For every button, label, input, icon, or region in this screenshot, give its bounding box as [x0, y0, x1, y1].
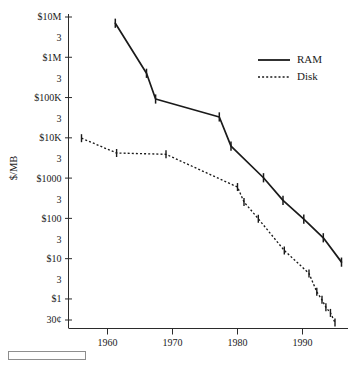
x-tick-group: 1960197019801990: [98, 329, 313, 349]
chart-legend: RAMDisk: [258, 53, 322, 82]
y-tick-label: $1M: [43, 52, 62, 63]
y-tick-label: 3: [57, 73, 62, 84]
y-tick-label: $10K: [39, 132, 62, 143]
series-line-disk: [82, 138, 336, 322]
y-axis-title: $/MB: [8, 156, 19, 181]
caption-placeholder-box: [8, 351, 86, 360]
y-tick-label: $1: [52, 293, 62, 304]
y-tick-label: $10: [47, 253, 62, 264]
y-tick-label: 3: [57, 153, 62, 164]
y-tick-label: $100K: [34, 92, 62, 103]
y-tick-label: 3: [57, 234, 62, 245]
y-tick-group: $10M3$1M3$100K3$10K3$10003$1003$103$130¢: [34, 11, 72, 325]
x-tick-label: 1980: [228, 337, 248, 348]
y-tick-label: 3: [57, 274, 62, 285]
x-tick-label: 1960: [98, 337, 118, 348]
x-tick-label: 1990: [293, 337, 313, 348]
y-tick-label: 30¢: [47, 314, 62, 325]
y-tick-label: $100: [42, 213, 62, 224]
y-tick-label: $1000: [37, 173, 62, 184]
legend-label-disk: Disk: [297, 70, 318, 82]
x-tick-label: 1970: [163, 337, 183, 348]
legend-label-ram: RAM: [297, 53, 322, 65]
series-layer: [82, 19, 342, 327]
y-tick-label: 3: [57, 113, 62, 124]
y-tick-label: 3: [57, 194, 62, 205]
y-tick-label: $10M: [38, 11, 62, 22]
y-tick-label: 3: [57, 32, 62, 43]
chart-figure: $10M3$1M3$100K3$10K3$10003$1003$103$130¢…: [0, 0, 353, 365]
price-per-megabyte-chart: $10M3$1M3$100K3$10K3$10003$1003$103$130¢…: [0, 0, 353, 365]
series-disk: [82, 134, 336, 326]
